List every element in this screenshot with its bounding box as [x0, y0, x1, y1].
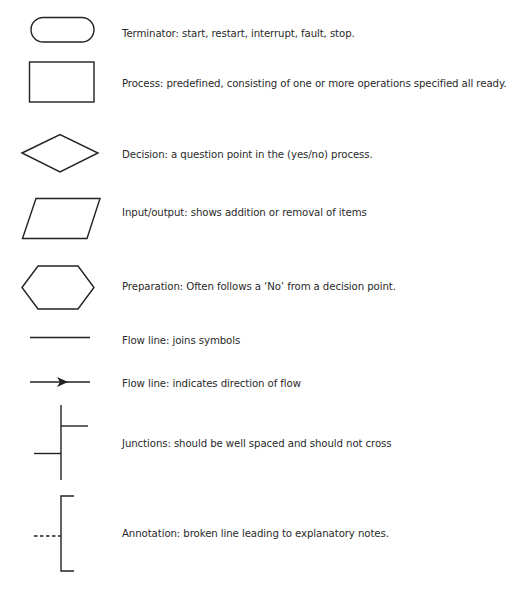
- input-output-symbol-icon: [23, 199, 101, 239]
- preparation-symbol-icon: [22, 266, 94, 309]
- flow-arrow-description: Flow line: indicates direction of flow: [122, 377, 301, 391]
- preparation-description: Preparation: Often follows a ‘No’ from a…: [122, 280, 396, 294]
- junctions-description: Junctions: should be well spaced and sho…: [122, 437, 392, 451]
- flow-arrow-symbol-icon: [30, 377, 90, 387]
- decision-description: Decision: a question point in the (yes/n…: [122, 148, 373, 162]
- annotation-description: Annotation: broken line leading to expla…: [122, 527, 389, 541]
- decision-symbol-icon: [22, 135, 98, 173]
- process-description: Process: predefined, consisting of one o…: [122, 77, 507, 91]
- process-symbol-icon: [30, 62, 95, 102]
- annotation-symbol-icon: [34, 496, 74, 571]
- input-output-description: Input/output: shows addition or removal …: [122, 206, 367, 220]
- terminator-description: Terminator: start, restart, interrupt, f…: [122, 27, 355, 41]
- flow-line-description: Flow line: joins symbols: [122, 334, 240, 348]
- junctions-symbol-icon: [34, 405, 88, 480]
- terminator-symbol-icon: [31, 18, 94, 43]
